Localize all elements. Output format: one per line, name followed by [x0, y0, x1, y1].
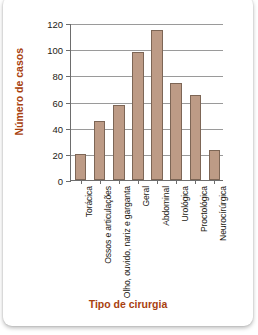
x-axis-tick	[138, 180, 139, 184]
bar	[75, 154, 86, 180]
bar	[170, 83, 181, 180]
y-axis-tick-label: 0	[58, 176, 63, 187]
x-axis-tick-label: Ossos e articulações	[103, 186, 113, 264]
bar	[190, 95, 201, 180]
y-axis-tick-label: 100	[47, 45, 63, 56]
x-axis-tick-label: Neurocírúrgica	[218, 186, 228, 241]
gridline	[71, 24, 223, 25]
y-axis-tick	[66, 24, 71, 25]
y-axis-tick	[66, 76, 71, 77]
bar	[151, 30, 162, 180]
x-axis-tick-label: Urológica	[180, 186, 190, 221]
bar	[94, 121, 105, 180]
x-axis-title: Tipo de cirurgia	[3, 298, 253, 310]
x-axis-tick-label: Geral	[141, 186, 151, 207]
x-axis-tick	[81, 180, 82, 184]
x-axis-tick	[157, 180, 158, 184]
x-axis-tick-label: Olho, ouvido, nariz e garganta	[122, 186, 132, 298]
y-axis-tick	[66, 50, 71, 51]
bar	[132, 52, 143, 180]
y-axis-tick	[66, 155, 71, 156]
y-axis-tick-label: 120	[47, 19, 63, 30]
x-axis-tick	[119, 180, 120, 184]
y-axis-tick-label: 60	[52, 97, 63, 108]
chart-card: Número de casos 020406080100120TorácicaO…	[3, 0, 253, 326]
x-axis-tick	[214, 180, 215, 184]
plot-area: 020406080100120TorácicaOssos e articulaç…	[70, 24, 223, 181]
gridline	[71, 76, 223, 77]
y-axis-tick	[66, 103, 71, 104]
x-axis-tick	[100, 180, 101, 184]
y-axis-tick-label: 40	[52, 123, 63, 134]
y-axis-tick	[66, 129, 71, 130]
bar	[209, 150, 220, 180]
y-axis-tick-label: 80	[52, 71, 63, 82]
y-axis-tick-label: 20	[52, 149, 63, 160]
bar	[113, 105, 124, 180]
x-axis-tick	[195, 180, 196, 184]
y-axis-title: Número de casos	[13, 48, 25, 136]
x-axis-tick-label: Proctológica	[199, 186, 209, 232]
x-axis-tick-label: Torácica	[84, 186, 94, 217]
y-axis-tick	[66, 181, 71, 182]
x-axis-tick	[176, 180, 177, 184]
gridline	[71, 50, 223, 51]
x-axis-tick-label: Abdominal	[161, 186, 171, 226]
